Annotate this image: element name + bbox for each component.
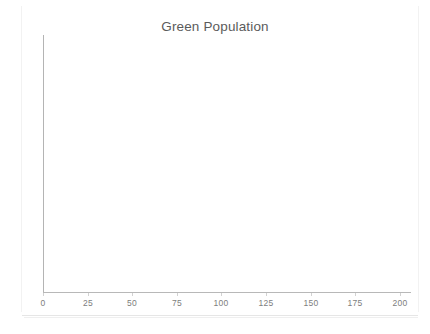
x-axis-tick-label: 200 [380,297,420,309]
plot-area [44,35,410,292]
x-axis-tick-mark [88,293,89,296]
chart-title: Green Population [0,18,430,35]
x-axis-tick-label: 50 [112,297,152,309]
x-axis-tick-mark [177,293,178,296]
x-axis-tick-mark [311,293,312,296]
x-axis-tick-label: 25 [68,297,108,309]
x-axis-tick-mark [355,293,356,296]
x-axis-tick-label: 75 [157,297,197,309]
x-axis-tick-mark [400,293,401,296]
green-population-chart: Green Population 0255075100125150175200 [0,0,430,334]
x-axis-tick-mark [221,293,222,296]
x-axis-tick-label: 0 [23,297,63,309]
x-axis-tick-mark [43,293,44,296]
x-axis-tick-label: 100 [201,297,241,309]
chart-screenshot: Green Population 0255075100125150175200 [0,0,430,334]
x-axis-tick-label: 125 [246,297,286,309]
x-axis-tick-label: 150 [291,297,331,309]
x-axis-tick-label: 175 [335,297,375,309]
y-axis-line [43,35,44,293]
x-axis-tick-mark [132,293,133,296]
x-axis-tick-mark [266,293,267,296]
